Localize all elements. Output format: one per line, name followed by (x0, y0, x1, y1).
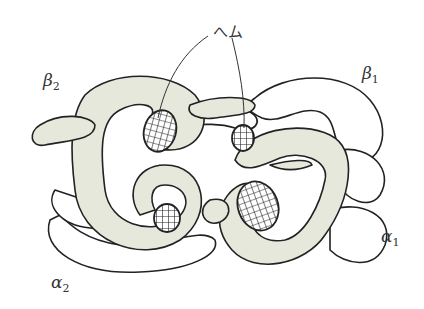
heme-beta1 (232, 125, 254, 151)
subunit-label-beta1: β1 (362, 63, 379, 86)
alpha2-subscript: 2 (62, 282, 69, 295)
beta2-symbol: β (43, 70, 53, 90)
hemoglobin-diagram: へム β2 β1 α1 α2 (0, 0, 424, 309)
subunit-label-alpha2: α2 (51, 272, 69, 295)
alpha1-subscript: 1 (392, 236, 399, 249)
beta1-subscript: 1 (372, 73, 379, 86)
heme-alpha2 (154, 204, 180, 232)
hemoglobin-structure (0, 0, 424, 309)
beta2-subscript: 2 (53, 80, 60, 93)
subunit-label-alpha1: α1 (381, 226, 399, 249)
alpha1-symbol: α (381, 226, 392, 246)
alpha2-symbol: α (51, 272, 62, 292)
heme-label: へム (213, 20, 243, 41)
subunit-label-beta2: β2 (43, 70, 60, 93)
beta1-symbol: β (362, 63, 372, 83)
